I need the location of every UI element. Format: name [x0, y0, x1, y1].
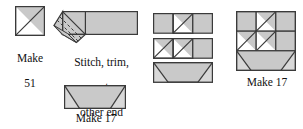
step-flying-geese	[64, 85, 140, 111]
assembly-row-top	[153, 13, 217, 35]
hst-unit-graphic	[15, 6, 49, 36]
flying-geese-caption: Make 17	[58, 112, 134, 125]
step-hst-unit	[15, 6, 49, 36]
assembly-row-bottom	[153, 62, 217, 84]
assembly-row-middle-graphic	[153, 38, 217, 60]
assembly-row-bottom-graphic	[153, 62, 217, 84]
stitch-trim-caption-line1: Stitch, trim,	[49, 56, 154, 69]
flying-geese-graphic	[64, 85, 140, 111]
assembled-block-caption: Make 17	[230, 76, 303, 89]
stitch-trim-graphic	[62, 11, 142, 39]
assembled-block	[236, 11, 298, 73]
quilting-instruction-diagram: Make 51 Stitch, trim, repeat on other en…	[0, 0, 303, 129]
assembly-row-middle	[153, 38, 217, 60]
step-stitch-trim	[62, 11, 142, 39]
assembled-block-graphic	[236, 11, 298, 73]
assembly-row-top-graphic	[153, 13, 217, 35]
